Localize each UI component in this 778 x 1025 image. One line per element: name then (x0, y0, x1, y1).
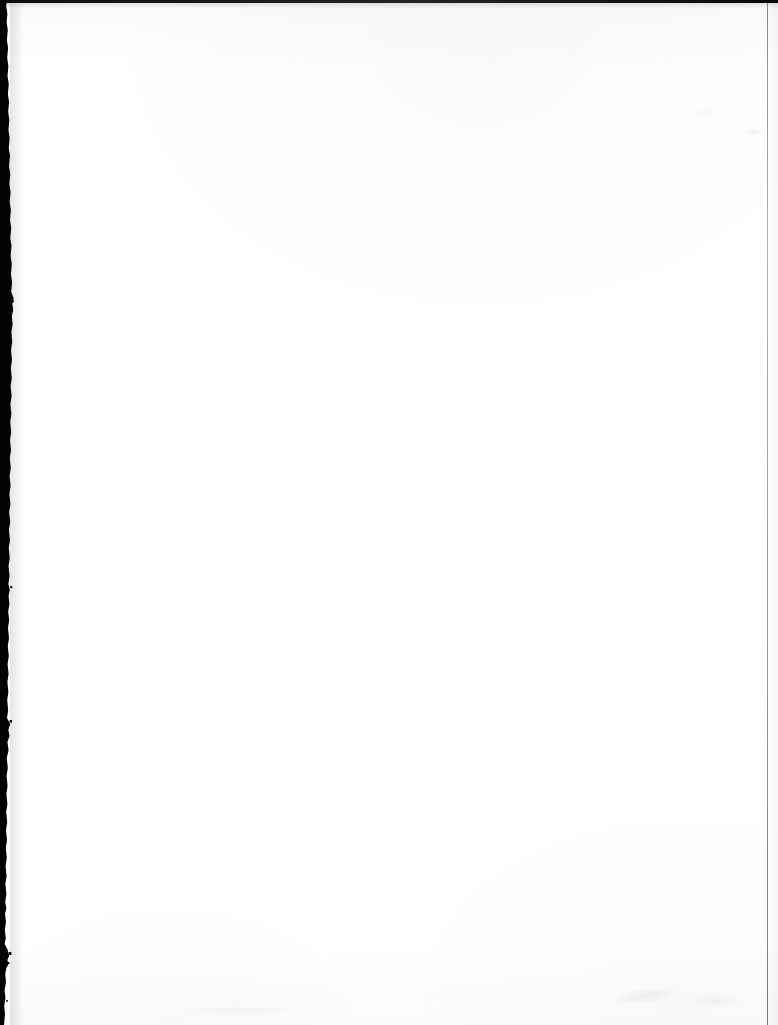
left-edge-band-shape (0, 0, 22, 1025)
left-edge-shadow-band (0, 0, 22, 1025)
right-edge-shade (768, 0, 778, 1025)
page-content-area (46, 44, 746, 984)
right-edge-rule (767, 0, 768, 1025)
top-edge-falloff (0, 3, 778, 9)
scan-banding-bottom (0, 979, 778, 1025)
scanned-page (0, 0, 778, 1025)
top-edge-line (0, 0, 778, 3)
